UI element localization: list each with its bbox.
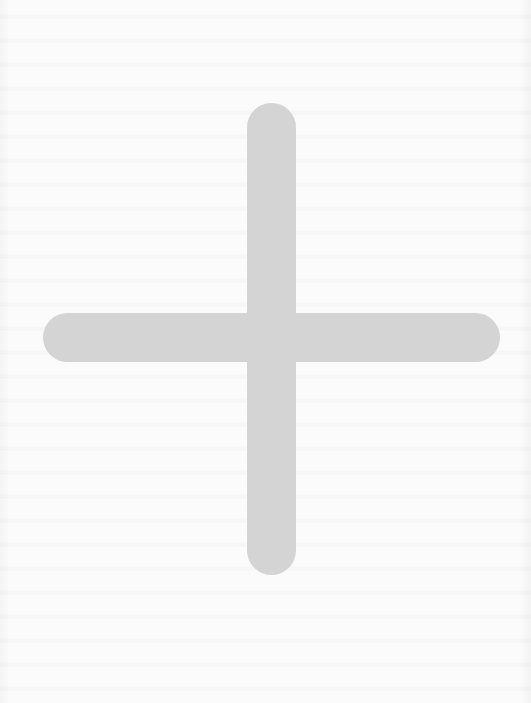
blank-page-background xyxy=(0,0,531,703)
plus-icon-horizontal-bar xyxy=(43,313,500,362)
page-right-edge-shadow xyxy=(521,0,531,703)
page-left-edge-shadow xyxy=(0,0,10,703)
